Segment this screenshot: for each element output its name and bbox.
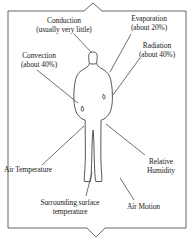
connector-relative-humidity [106,124,145,155]
connector-air-temperature [42,126,84,165]
label-air-temperature: Air Temperature [4,166,82,175]
human-figure-outline [74,52,113,182]
label-convection: Convection (about 40%) [2,52,76,69]
label-conduction: Conduction (usually very little) [18,17,110,34]
label-air-motion: Air Motion [127,203,187,212]
label-evaporation: Evaporation (about 20%) [112,15,186,32]
label-relative-humidity: Relative Humidity [132,158,190,175]
connector-air-motion [120,178,134,200]
heat-transfer-diagram: Conduction (usually very little) Evapora… [0,0,194,240]
connector-surrounding-surface [86,172,92,196]
connector-radiation [113,58,140,95]
label-radiation: Radiation (about 40%) [122,42,192,59]
label-surrounding-surface-temperature: Surrounding surface temperature [22,199,118,216]
connector-conduction [74,34,92,53]
connector-convection [37,70,78,103]
